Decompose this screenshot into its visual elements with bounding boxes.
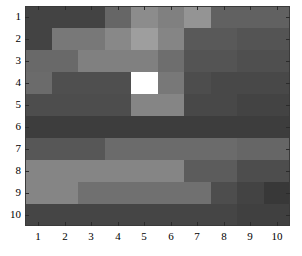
heatmap-cell xyxy=(237,138,264,160)
heatmap-cell xyxy=(211,72,238,94)
y-axis-tick xyxy=(286,193,290,194)
y-axis-tick xyxy=(286,171,290,172)
heatmap-cell xyxy=(211,94,238,116)
heatmap-cell xyxy=(237,116,264,138)
heatmap-cell xyxy=(184,28,211,50)
heatmap-cell xyxy=(237,50,264,72)
heatmap-cell xyxy=(131,160,158,182)
y-axis-tick-label: 1 xyxy=(1,11,21,22)
heatmap-cell xyxy=(105,94,132,116)
heatmap-cell xyxy=(131,50,158,72)
y-axis-tick xyxy=(25,171,29,172)
x-axis-tick xyxy=(38,222,39,226)
y-axis-tick xyxy=(286,149,290,150)
heatmap-cell xyxy=(52,182,79,204)
y-axis-tick-label: 3 xyxy=(1,55,21,66)
heatmap-cell xyxy=(158,72,185,94)
heatmap-cell xyxy=(158,50,185,72)
y-axis-tick xyxy=(25,105,29,106)
y-axis-tick xyxy=(25,215,29,216)
heatmap-cell xyxy=(52,50,79,72)
heatmap-cell xyxy=(52,72,79,94)
x-axis-tick xyxy=(144,6,145,10)
heatmap-cell xyxy=(105,138,132,160)
x-axis-tick xyxy=(250,222,251,226)
heatmap-cell xyxy=(78,94,105,116)
y-axis-tick xyxy=(25,83,29,84)
y-axis-tick-label: 6 xyxy=(1,121,21,132)
heatmap-cell xyxy=(78,116,105,138)
heatmap-cell xyxy=(78,138,105,160)
heatmap-cell xyxy=(105,28,132,50)
x-axis-tick xyxy=(144,222,145,226)
heatmap-figure: 12345678910 12345678910 xyxy=(0,0,302,256)
heatmap-cell xyxy=(211,116,238,138)
heatmap-plot-area[interactable] xyxy=(25,6,290,226)
x-axis-tick-label: 5 xyxy=(132,231,156,242)
heatmap-cell xyxy=(78,72,105,94)
x-axis-tick xyxy=(197,222,198,226)
heatmap-cell xyxy=(211,182,238,204)
x-axis-tick-label: 2 xyxy=(53,231,77,242)
heatmap-cell xyxy=(78,28,105,50)
x-axis-tick xyxy=(65,6,66,10)
x-axis-tick-label: 7 xyxy=(185,231,209,242)
heatmap-cell xyxy=(158,138,185,160)
x-axis-tick-label: 9 xyxy=(238,231,262,242)
x-axis-tick xyxy=(277,6,278,10)
x-axis-tick-label: 8 xyxy=(212,231,236,242)
x-axis-tick-label: 6 xyxy=(159,231,183,242)
heatmap-cell xyxy=(78,182,105,204)
heatmap-cell xyxy=(158,116,185,138)
heatmap-cell xyxy=(184,72,211,94)
x-axis-tick xyxy=(197,6,198,10)
heatmap-cell xyxy=(131,138,158,160)
heatmap-cell xyxy=(52,138,79,160)
y-axis-tick-label: 10 xyxy=(1,209,21,220)
heatmap-cell xyxy=(211,28,238,50)
x-axis-tick xyxy=(118,6,119,10)
y-axis-tick xyxy=(286,17,290,18)
heatmap-cell xyxy=(184,116,211,138)
x-axis-tick xyxy=(118,222,119,226)
heatmap-cell xyxy=(158,182,185,204)
heatmap-cell xyxy=(237,72,264,94)
heatmap-cell xyxy=(184,50,211,72)
x-axis-tick xyxy=(277,222,278,226)
heatmap-cell xyxy=(131,28,158,50)
x-axis-tick xyxy=(224,222,225,226)
y-axis-tick xyxy=(25,193,29,194)
x-axis-tick xyxy=(38,6,39,10)
x-axis-tick-label: 10 xyxy=(265,231,289,242)
x-axis-tick xyxy=(250,6,251,10)
heatmap-cell xyxy=(211,160,238,182)
heatmap-cell xyxy=(158,28,185,50)
y-axis-tick xyxy=(286,127,290,128)
heatmap-cell xyxy=(78,50,105,72)
y-axis-tick xyxy=(25,149,29,150)
y-axis-tick xyxy=(25,17,29,18)
heatmap-cell xyxy=(184,138,211,160)
x-axis-tick-label: 3 xyxy=(79,231,103,242)
heatmap-cell xyxy=(105,160,132,182)
x-axis-tick xyxy=(171,222,172,226)
heatmap-cell xyxy=(131,116,158,138)
y-axis-tick xyxy=(286,83,290,84)
x-axis-tick-label: 1 xyxy=(26,231,50,242)
heatmap-cell xyxy=(52,116,79,138)
heatmap-cell xyxy=(237,160,264,182)
x-axis-tick xyxy=(91,6,92,10)
heatmap-cell xyxy=(158,94,185,116)
y-axis-tick xyxy=(286,215,290,216)
heatmap-cell xyxy=(52,94,79,116)
x-axis-tick-label: 4 xyxy=(106,231,130,242)
heatmap-cell xyxy=(237,28,264,50)
y-axis-tick xyxy=(286,39,290,40)
heatmap-cell xyxy=(52,28,79,50)
x-axis-tick xyxy=(171,6,172,10)
heatmap-cell xyxy=(105,72,132,94)
y-axis-tick xyxy=(286,105,290,106)
heatmap-cell xyxy=(78,160,105,182)
y-axis-tick xyxy=(25,127,29,128)
heatmap-cell xyxy=(105,182,132,204)
